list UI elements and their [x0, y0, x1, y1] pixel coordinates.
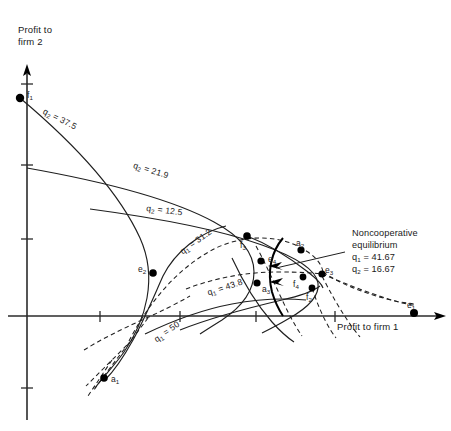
point-label-sub: 4 — [295, 283, 299, 290]
point-label-sub: 4 — [273, 258, 277, 265]
curve-q1-43_8-right — [322, 274, 414, 305]
annotation-line-q1: q1 = 41.67 — [352, 252, 395, 264]
point-label-a3: a3 — [262, 284, 270, 295]
point-a1 — [100, 374, 108, 382]
point-label-sub: 1 — [29, 94, 33, 101]
curve-dashed-a1-tail — [88, 360, 112, 396]
point-label-a2: a2 — [296, 238, 304, 249]
point-label-sub: 3 — [242, 244, 246, 251]
point-label-sub: 2 — [308, 296, 312, 303]
point-label-sub: 1 — [412, 304, 416, 311]
annotation-q2-value: = 16.67 — [361, 264, 395, 274]
point-label-sub: 2 — [143, 268, 147, 275]
curve-q1-50 — [105, 226, 226, 380]
curve-q1-31_2-lower — [323, 272, 414, 304]
point-label-f4: f4 — [293, 279, 299, 290]
point-label-sub: 3 — [267, 288, 271, 295]
point-e4 — [257, 257, 264, 264]
curve-label-sub: 2 — [151, 208, 155, 215]
curve-dashed-lower-left-tail — [86, 340, 132, 386]
point-label-f2: f2 — [306, 292, 312, 303]
annotation-line-noncooperative: Noncooperative — [352, 228, 418, 240]
point-label-e4: e4 — [268, 254, 276, 265]
curve-q2-37_5 — [20, 98, 149, 388]
point-f2 — [309, 285, 316, 292]
annotation-line-equilibrium: equilibrium — [352, 240, 398, 252]
point-label-f1: f1 — [27, 90, 33, 101]
point-label-e1: e1 — [407, 300, 415, 311]
plot-svg — [0, 0, 451, 431]
y-axis-title-line1: Profit to — [18, 24, 52, 36]
annotation-q1-value: = 41.67 — [361, 252, 395, 262]
point-f3 — [243, 232, 251, 240]
annotation-line-q2: q2 = 16.67 — [352, 264, 395, 276]
point-label-sub: 3 — [330, 269, 334, 276]
point-label-sub: 1 — [116, 378, 120, 385]
x-axis-title: Profit to firm 1 — [337, 321, 399, 333]
point-f1 — [16, 94, 24, 102]
point-label-sub: 2 — [301, 242, 305, 249]
annotation-q1-sub: 1 — [357, 256, 361, 263]
curve-q2-21_9 — [27, 168, 254, 334]
isoprofit-diagram: Profit to firm 2 Profit to firm 1 q2 = 3… — [0, 0, 451, 431]
annotation-q2-sub: 2 — [357, 268, 361, 275]
point-f4 — [300, 274, 307, 281]
point-a3 — [253, 279, 260, 286]
point-label-a1: a1 — [111, 374, 119, 385]
point-e2 — [149, 269, 157, 277]
point-label-f3: f3 — [240, 240, 246, 251]
curve-label-value: = 12.5 — [154, 204, 183, 217]
y-axis-title-line2: firm 2 — [18, 36, 43, 48]
point-label-e3: e3 — [325, 265, 333, 276]
point-label-e2: e2 — [138, 264, 146, 275]
